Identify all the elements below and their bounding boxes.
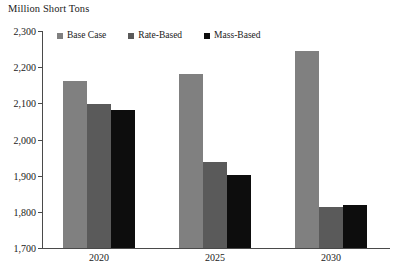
y-tick-mark	[38, 67, 42, 68]
y-tick-mark	[38, 212, 42, 213]
bar	[87, 104, 111, 248]
bar-group	[63, 31, 135, 248]
y-tick-label: 1,700	[14, 243, 37, 254]
y-tick-label: 2,300	[14, 26, 37, 37]
bar-group	[179, 31, 251, 248]
y-tick-label: 2,100	[14, 98, 37, 109]
y-tick-label: 2,000	[14, 134, 37, 145]
bar	[111, 110, 135, 248]
x-axis-line	[42, 248, 390, 249]
y-tick-label: 1,800	[14, 206, 37, 217]
bar	[295, 51, 319, 248]
x-axis-label: 2030	[295, 252, 367, 263]
x-axis-label: 2020	[63, 252, 135, 263]
x-axis-label: 2025	[179, 252, 251, 263]
bar	[63, 81, 87, 248]
y-axis-line	[42, 31, 43, 248]
bar	[179, 74, 203, 248]
bar	[319, 207, 343, 248]
bar-chart: Million Short Tons Base Case Rate-Based …	[0, 0, 402, 274]
plot-area: 2,3002,2002,1002,0001,9001,8001,700 2020…	[42, 31, 390, 248]
y-tick-label: 1,900	[14, 170, 37, 181]
y-tick-mark	[38, 103, 42, 104]
y-tick-mark	[38, 31, 42, 32]
y-tick-mark	[38, 140, 42, 141]
y-tick-mark	[38, 248, 42, 249]
bar	[343, 205, 367, 248]
bar	[227, 175, 251, 248]
bar-group	[295, 31, 367, 248]
y-tick-label: 2,200	[14, 62, 37, 73]
y-tick-mark	[38, 176, 42, 177]
y-axis-title: Million Short Tons	[8, 3, 89, 14]
bar	[203, 162, 227, 248]
